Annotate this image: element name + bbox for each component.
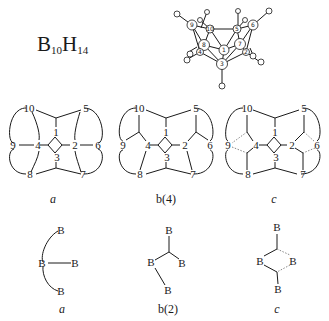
- boron-label: B: [165, 224, 172, 236]
- hydrogen-atom: [198, 18, 203, 23]
- boron-label: B: [274, 283, 281, 295]
- boron-label: B: [71, 257, 78, 269]
- hydrogen-atom: [258, 59, 264, 65]
- svg-text:4: 4: [198, 48, 202, 55]
- node-label-4: 4: [145, 139, 151, 151]
- node-label-10: 10: [24, 102, 36, 114]
- node-label-7: 7: [190, 168, 196, 180]
- node-label-1: 1: [163, 126, 169, 138]
- svg-text:9: 9: [190, 21, 194, 28]
- bond-type-b2: B B B B b(2): [147, 224, 185, 316]
- molecule-3d-structure: 9 10 5 6 8 1 7 4 2 3: [174, 8, 272, 89]
- node-label-9: 9: [225, 139, 231, 151]
- boron-label: B: [38, 257, 45, 269]
- boron-atom-9: 9: [187, 20, 197, 30]
- node-label-10: 10: [134, 102, 146, 114]
- hydrogen-atom: [205, 10, 210, 15]
- node-label-1: 1: [272, 126, 278, 138]
- boron-label: B: [164, 284, 171, 296]
- bond-caption-c: c: [274, 302, 280, 316]
- svg-text:5: 5: [235, 25, 239, 32]
- boron-label: B: [57, 224, 64, 236]
- node-label-7: 7: [80, 168, 86, 180]
- hydrogen-atom: [236, 9, 241, 14]
- boron-label: B: [147, 256, 154, 268]
- figure-canvas: 9 10 5 6 8 1 7 4 2 3: [0, 0, 329, 321]
- node-label-3: 3: [273, 151, 279, 163]
- node-label-3: 3: [164, 151, 170, 163]
- boron-atom-2: 2: [243, 48, 250, 56]
- svg-text:6: 6: [251, 21, 255, 28]
- boron-label: B: [256, 255, 263, 267]
- hydrogen-atom: [266, 8, 272, 14]
- hydrogen-atom: [187, 51, 193, 57]
- boron-label: B: [57, 285, 64, 297]
- node-label-6: 6: [314, 139, 320, 151]
- svg-text:2: 2: [244, 48, 248, 55]
- bond-caption-b2: b(2): [158, 302, 178, 316]
- node-label-2: 2: [289, 139, 295, 151]
- boron-label: B: [273, 221, 280, 233]
- node-label-4: 4: [35, 139, 41, 151]
- boron-atom-4: 4: [197, 48, 204, 56]
- node-label-5: 5: [301, 102, 307, 114]
- node-label-7: 7: [300, 168, 306, 180]
- boron-atom-1: 1: [219, 45, 229, 55]
- diagram-caption-c: c: [271, 192, 277, 206]
- hydrogen-atom: [174, 11, 180, 17]
- node-label-2: 2: [182, 139, 188, 151]
- node-label-9: 9: [120, 139, 126, 151]
- node-label-5: 5: [83, 102, 89, 114]
- node-label-8: 8: [137, 168, 143, 180]
- boron-atom-10: 10: [206, 25, 214, 33]
- boron-label: B: [289, 255, 296, 267]
- topology-diagram-b4: 10 5 9 4 1 2 6 3 8 7 b(4): [119, 102, 213, 206]
- bond-type-c: B B B B c: [256, 221, 296, 316]
- node-label-1: 1: [53, 126, 59, 138]
- node-label-8: 8: [245, 168, 251, 180]
- node-label-6: 6: [207, 139, 213, 151]
- node-label-6: 6: [95, 139, 101, 151]
- diagram-caption-a: a: [50, 192, 56, 206]
- svg-text:10: 10: [206, 25, 214, 32]
- hydrogen-atom: [219, 83, 225, 89]
- topology-diagram-c: 10 5 9 4 1 2 6 3 8 7 c: [225, 102, 320, 206]
- node-label-10: 10: [242, 102, 254, 114]
- svg-text:8: 8: [202, 41, 206, 48]
- bond-caption-a: a: [59, 302, 65, 316]
- diagram-caption-b4: b(4): [156, 192, 176, 206]
- svg-text:1: 1: [222, 46, 226, 53]
- topology-diagram-a: 10 5 9 4 1 2 6 3 8 7 a: [10, 102, 103, 206]
- boron-atom-6: 6: [248, 20, 258, 30]
- node-label-8: 8: [27, 168, 33, 180]
- svg-text:7: 7: [238, 40, 242, 47]
- hydrogen-atom: [250, 53, 256, 59]
- bond-type-a: B B B B a: [38, 224, 78, 316]
- svg-text:3: 3: [220, 60, 224, 67]
- node-label-4: 4: [253, 139, 259, 151]
- boron-atom-5: 5: [233, 25, 241, 33]
- boron-atom-3: 3: [217, 59, 228, 70]
- node-label-2: 2: [72, 139, 78, 151]
- hydrogen-atom: [184, 57, 190, 63]
- boron-label: B: [178, 257, 185, 269]
- node-label-5: 5: [193, 102, 199, 114]
- node-label-3: 3: [54, 151, 60, 163]
- node-label-9: 9: [10, 139, 16, 151]
- hydrogen-atom: [243, 18, 248, 23]
